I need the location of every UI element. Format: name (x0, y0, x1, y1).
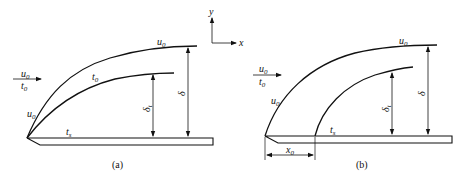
y-axis-label: y (208, 6, 214, 17)
thermal-thickness-label-a: δt (141, 104, 154, 112)
caption-a: (a) (112, 159, 123, 171)
coordinate-axes: y x (208, 6, 244, 48)
velocity-thickness-label-b: δ (416, 91, 427, 96)
u0-near-label-b: u0 (271, 95, 280, 108)
velocity-boundary-curve-b (265, 45, 437, 136)
velocity-boundary-curve-a (27, 46, 197, 138)
velocity-thickness-label-a: δ (176, 91, 187, 96)
thermal-thickness-label-b: δt (380, 104, 393, 112)
panel-a: u0 t0 u0 u0 t0 ts δt δ (a) (13, 36, 213, 171)
t0-curve-label-a: t0 (92, 71, 99, 84)
boundary-layer-diagram: u0 t0 u0 u0 t0 ts δt δ (a) y x u0 t0 (0, 0, 463, 184)
x-axis-label: x (238, 37, 244, 48)
freestream-temperature-label-a: t0 (21, 80, 28, 93)
u0-near-label-a: u0 (27, 108, 36, 121)
surface-temp-label-b: ts (330, 124, 336, 137)
freestream-velocity-label-b: u0 (259, 63, 268, 76)
u0-top-label-a: u0 (157, 36, 166, 49)
flat-plate-b (265, 136, 452, 143)
surface-temp-label-a: ts (66, 126, 72, 139)
freestream-temperature-label-b: t0 (259, 76, 266, 89)
caption-b: (b) (356, 159, 368, 171)
flat-plate-a (27, 138, 213, 145)
panel-b: u0 t0 u0 u0 ts δt δ x0 (b) (253, 35, 452, 171)
